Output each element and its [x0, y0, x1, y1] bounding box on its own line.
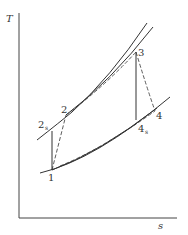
high-pressure-isobar-inner	[66, 27, 153, 115]
point-4s-subscript: s	[145, 128, 148, 135]
heat-rejection-dashed	[60, 111, 155, 166]
x-axis-label: s	[158, 220, 163, 231]
point-2-label: 2	[61, 104, 67, 115]
point-1-label: 1	[48, 172, 54, 183]
point-4-label: 4	[156, 110, 162, 121]
actual-expansion-dashed	[136, 52, 155, 111]
y-axis-label: T	[6, 13, 14, 24]
point-2s-subscript: s	[45, 124, 48, 131]
low-pressure-isobar-inner	[52, 108, 157, 170]
point-4s-label: 4	[138, 123, 144, 134]
ts-diagram: T s 1 2 2 s 3 4 4 s	[0, 0, 188, 235]
point-2s-label: 2	[38, 119, 44, 130]
high-pressure-isobar-outer	[37, 23, 147, 140]
actual-compression-dashed	[52, 115, 66, 170]
point-3-label: 3	[138, 47, 144, 58]
low-pressure-isobar-outer	[40, 97, 170, 173]
